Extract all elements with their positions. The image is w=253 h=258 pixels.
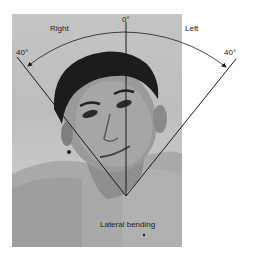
left-angle-label: 40° <box>224 48 236 57</box>
right-limit-line <box>17 57 126 196</box>
caption-label: Lateral bending <box>100 220 155 229</box>
neutral-angle-label: 0° <box>122 15 130 24</box>
left-direction-label: Left <box>185 24 198 33</box>
motion-arc <box>28 32 124 66</box>
right-angle-label: 40° <box>16 48 28 57</box>
left-limit-line <box>126 59 236 196</box>
right-direction-label: Right <box>50 24 69 33</box>
